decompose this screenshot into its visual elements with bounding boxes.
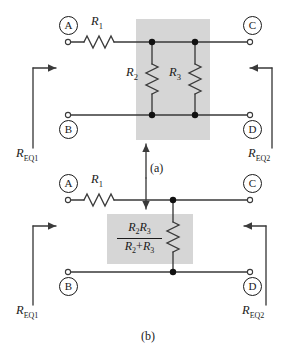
req2-arrowhead-b <box>244 222 252 229</box>
formula-num-r3-main: R <box>140 220 147 234</box>
resistor-label-r1-circuit-a-main: R <box>91 14 99 28</box>
node-label-a-circuit-a: A <box>59 16 78 35</box>
equivalent-resistance-label-req2-a: REQ2 <box>248 147 270 163</box>
resistor-label-r1-circuit-a-sub: 1 <box>99 21 103 31</box>
junction-dot-a-bottom-left <box>149 112 155 118</box>
resistor-label-r3: R3 <box>169 66 181 81</box>
resistor-r1-zigzag-b <box>84 194 114 206</box>
equivalent-resistance-label-req1-a: REQ1 <box>16 147 38 163</box>
junction-dot-a-top-left <box>149 39 155 45</box>
callout-arrowhead-a <box>142 144 149 152</box>
req1-arrowhead-a <box>48 64 56 71</box>
resistor-label-r3-sub: 3 <box>177 72 181 82</box>
terminal-c-node-b <box>247 197 252 202</box>
part-label-a: (a) <box>150 162 163 174</box>
resistor-label-r1-circuit-b-sub: 1 <box>99 179 103 189</box>
formula-den-plus: + <box>136 239 143 253</box>
resistor-r1-zigzag-a <box>84 36 114 48</box>
terminal-d-node-a <box>247 112 252 117</box>
formula-num-r2-main: R <box>128 220 135 234</box>
terminal-a-node-a <box>65 39 70 44</box>
req1-a-main: R <box>16 146 24 160</box>
resistor-label-r3-main: R <box>169 65 177 79</box>
req1-a-sub: EQ1 <box>24 154 39 163</box>
resistor-label-r1-circuit-b-main: R <box>91 172 99 186</box>
req2-b-sub: EQ2 <box>250 311 265 320</box>
terminal-b-node-b <box>65 269 70 274</box>
formula-num-r3-sub: 3 <box>147 227 151 236</box>
req1-b-main: R <box>16 303 24 317</box>
resistor-label-r2: R2 <box>126 66 138 81</box>
terminal-d-node-b <box>247 269 252 274</box>
junction-dot-b-bottom <box>170 269 176 275</box>
node-label-a-circuit-b: A <box>59 174 78 193</box>
node-label-b-circuit-a: B <box>59 120 78 139</box>
node-label-d-circuit-a: D <box>243 120 262 139</box>
node-label-c-circuit-b: C <box>243 174 262 193</box>
junction-dot-a-bottom-right <box>192 112 198 118</box>
junction-dot-b-top <box>170 197 176 203</box>
formula-den-r3-sub: 3 <box>150 246 154 255</box>
equivalent-resistance-formula: R2R3 R2+R3 <box>117 221 162 256</box>
resistor-label-r2-main: R <box>126 65 134 79</box>
terminal-c-node-a <box>247 39 252 44</box>
callout-arrowhead-b <box>142 201 149 209</box>
node-label-b-circuit-b: B <box>59 277 78 296</box>
node-label-c-circuit-a: C <box>243 16 262 35</box>
part-label-b: (b) <box>141 330 155 342</box>
req2-b-main: R <box>242 303 250 317</box>
formula-denominator: R2+R3 <box>117 238 162 256</box>
junction-dot-a-top-right <box>192 39 198 45</box>
resistor-label-r1-circuit-a: R1 <box>91 15 103 30</box>
req2-a-sub: EQ2 <box>256 154 271 163</box>
formula-numerator: R2R3 <box>117 221 162 238</box>
terminal-a-node-b <box>65 197 70 202</box>
resistor-label-r2-sub: 2 <box>134 72 138 82</box>
node-label-d-circuit-b: D <box>243 277 262 296</box>
formula-den-r2-main: R <box>125 239 132 253</box>
req2-a-main: R <box>248 146 256 160</box>
equivalent-resistance-label-req1-b: REQ1 <box>16 304 38 320</box>
circuit-figure: A B C D R1 R2 R3 REQ1 REQ2 (a) A B C D R… <box>0 0 300 352</box>
req2-arrowhead-a <box>250 64 258 71</box>
req1-arrowhead-b <box>48 222 56 229</box>
resistor-label-r1-circuit-b: R1 <box>91 173 103 188</box>
terminal-b-node-a <box>65 112 70 117</box>
equivalent-resistance-label-req2-b: REQ2 <box>242 304 264 320</box>
req1-b-sub: EQ1 <box>24 311 39 320</box>
